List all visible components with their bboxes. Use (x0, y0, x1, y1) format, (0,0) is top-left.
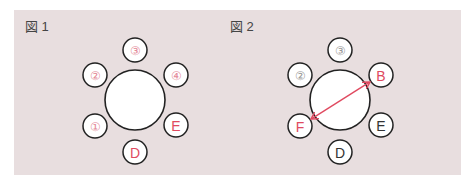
seat-label: ② (90, 69, 101, 83)
seating-diagram: 図 1③②④①ED図 2③②BFED (0, 0, 474, 183)
seat-lower-left: ① (83, 114, 107, 138)
seat-label: E (171, 118, 180, 134)
seat-label: ① (90, 120, 101, 134)
seat-bottom: D (328, 140, 352, 164)
seat-top: ③ (123, 38, 147, 62)
seat-label: ② (295, 69, 306, 83)
seat-lower-right: E (369, 113, 393, 137)
seat-label: F (296, 119, 305, 135)
seat-label: ④ (171, 69, 182, 83)
seat-top: ③ (328, 38, 352, 62)
seat-upper-left: ② (83, 63, 107, 87)
seat-lower-left: F (288, 114, 312, 138)
seat-upper-right: ④ (164, 63, 188, 87)
seat-upper-left: ② (288, 63, 312, 87)
seat-label: D (335, 145, 345, 161)
seat-lower-right: E (164, 113, 188, 137)
seat-label: ③ (335, 44, 346, 58)
seat-bottom: D (123, 140, 147, 164)
figure-label: 図 1 (25, 19, 49, 34)
figure-2: 図 2③②BFED (230, 19, 393, 164)
seat-upper-right: B (369, 63, 393, 87)
seat-label: ③ (130, 44, 141, 58)
figure-label: 図 2 (230, 19, 254, 34)
figure-1: 図 1③②④①ED (25, 19, 188, 164)
seat-label: B (376, 68, 385, 84)
seat-label: E (376, 118, 385, 134)
seat-label: D (130, 145, 140, 161)
table-circle (105, 70, 165, 130)
